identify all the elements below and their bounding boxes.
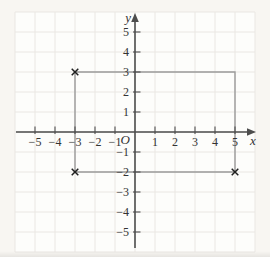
- textbook-figure-page: −5−4−3−2−11234554321−1−2−3−4−5Oxy: [0, 0, 270, 257]
- y-tick-label: 4: [123, 45, 129, 59]
- y-tick-label: 2: [123, 85, 129, 99]
- y-axis-label: y: [123, 10, 131, 25]
- x-tick-label: 3: [192, 135, 198, 149]
- y-tick-label: −4: [116, 205, 129, 219]
- x-tick-label: 2: [172, 135, 178, 149]
- y-tick-label: 3: [123, 65, 129, 79]
- coordinate-plane: −5−4−3−2−11234554321−1−2−3−4−5Oxy: [0, 0, 270, 257]
- x-tick-label: 1: [152, 135, 158, 149]
- x-tick-label: −3: [69, 135, 82, 149]
- y-tick-label: 5: [123, 25, 129, 39]
- y-tick-label: −3: [116, 185, 129, 199]
- origin-label: O: [121, 132, 131, 147]
- x-tick-label: −4: [49, 135, 62, 149]
- x-tick-label: −5: [29, 135, 42, 149]
- x-tick-label: −2: [89, 135, 102, 149]
- y-tick-label: 1: [123, 105, 129, 119]
- y-tick-label: −5: [116, 225, 129, 239]
- y-tick-label: −1: [116, 145, 129, 159]
- y-tick-label: −2: [116, 165, 129, 179]
- x-axis-label: x: [249, 133, 256, 148]
- x-tick-label: 4: [212, 135, 218, 149]
- x-tick-label: 5: [232, 135, 238, 149]
